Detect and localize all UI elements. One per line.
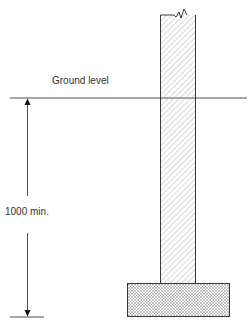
ground-level-label: Ground level — [52, 75, 109, 86]
wall — [161, 9, 196, 283]
footing — [128, 284, 230, 317]
foundation-diagram — [0, 0, 248, 325]
depth-label: 1000 min. — [5, 206, 49, 217]
